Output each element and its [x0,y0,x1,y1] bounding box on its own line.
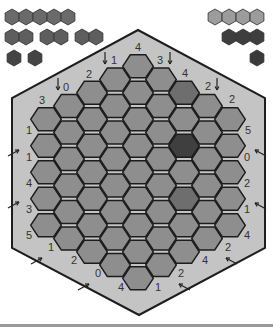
edge-clue-number: 1 [26,124,32,136]
palette-hex[interactable] [33,9,47,25]
palette-hex[interactable] [222,9,236,25]
palette-hex[interactable] [75,29,89,45]
left-palette-piece-1[interactable] [7,50,21,66]
edge-clue-number: 1 [111,54,117,66]
left-palette-piece-1[interactable] [28,50,42,66]
palette-hex[interactable] [250,29,264,45]
palette-hex[interactable] [19,29,33,45]
palette-hex[interactable] [5,9,19,25]
palette-hex[interactable] [236,9,250,25]
edge-clue-number: 1 [244,203,250,215]
edge-clue-number: 0 [95,267,101,279]
board-cell[interactable] [215,214,246,237]
palette-hex[interactable] [5,29,19,45]
left-palette-piece-2[interactable] [40,29,68,45]
edge-clue-number: 2 [205,80,211,92]
board-cell[interactable] [215,134,246,157]
left-palette-piece-5[interactable] [5,9,75,25]
palette-hex[interactable] [236,29,250,45]
edge-clue-number: 0 [244,151,250,163]
edge-clue-number: 3 [26,203,32,215]
edge-clue-number: 2 [244,177,250,189]
palette-hex[interactable] [28,50,42,66]
left-palette-piece-2[interactable] [75,29,103,45]
edge-clue-number: 4 [135,41,141,53]
right-palette-piece-1[interactable] [250,50,264,66]
board-cell[interactable] [215,161,246,184]
palette-hex[interactable] [47,9,61,25]
edge-clue-number: 0 [63,81,69,93]
edge-clue-number: 4 [202,254,208,266]
edge-clue-number: 4 [182,67,188,79]
palette-hex[interactable] [89,29,103,45]
right-palette-piece-4[interactable] [208,9,264,25]
board-cell[interactable] [215,108,246,131]
edge-clue-number: 2 [71,254,77,266]
right-palette-piece-3[interactable] [222,29,264,45]
edge-clue-number: 1 [48,241,54,253]
left-palette-piece-2[interactable] [5,29,33,45]
edge-clue-number: 1 [26,151,32,163]
palette-hex[interactable] [19,9,33,25]
palette-hex[interactable] [208,9,222,25]
edge-clue-number: 2 [229,93,235,105]
edge-clue-number: 3 [39,94,45,106]
edge-clue-number: 5 [26,229,32,241]
palette-hex[interactable] [61,9,75,25]
edge-clue-number: 4 [118,281,124,293]
edge-clue-number: 2 [178,267,184,279]
edge-clue-number: 2 [86,68,92,80]
edge-clue-number: 3 [157,54,163,66]
edge-clue-number: 4 [244,229,250,241]
edge-clue-number: 5 [245,124,251,136]
palette-hex[interactable] [54,29,68,45]
palette-hex[interactable] [40,29,54,45]
edge-clue-number: 2 [225,241,231,253]
palette-hex[interactable] [7,50,21,66]
palette-hex[interactable] [250,50,264,66]
edge-clue-number: 4 [26,177,32,189]
edge-clue-number: 1 [155,281,161,293]
game-stage: 302143422502142421402153411 [0,0,273,327]
palette-hex[interactable] [222,29,236,45]
palette-hex[interactable] [250,9,264,25]
hex-board: 302143422502142421402153411 [0,0,273,327]
board-cell[interactable] [215,187,246,210]
